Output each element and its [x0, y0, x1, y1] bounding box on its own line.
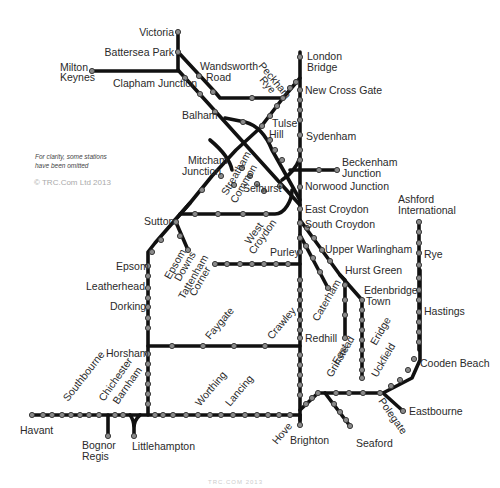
- label-new-cross-gate[interactable]: New Cross Gate: [305, 84, 382, 96]
- label-victoria[interactable]: Victoria: [139, 26, 174, 38]
- label-leatherhead[interactable]: Leatherhead: [86, 280, 145, 292]
- label-ashford-international-2[interactable]: International: [398, 204, 456, 216]
- rail-network-map: Victoria Battersea Park Milton Keynes Cl…: [0, 0, 500, 488]
- label-tulse-hill-2[interactable]: Hill: [269, 128, 284, 140]
- label-redhill[interactable]: Redhill: [305, 332, 337, 344]
- label-beckenham-junction-2[interactable]: Junction: [342, 167, 381, 179]
- label-littlehampton[interactable]: Littlehampton: [132, 440, 195, 452]
- label-uckfield[interactable]: Uckfield: [368, 341, 397, 379]
- line-sutton-horsham: [148, 203, 190, 415]
- label-balham[interactable]: Balham: [182, 109, 218, 121]
- label-edenbridge-town-2[interactable]: Town: [366, 295, 391, 307]
- label-dorking[interactable]: Dorking: [110, 300, 146, 312]
- label-upper-warlingham[interactable]: Upper Warlingham: [325, 243, 412, 255]
- copyright-text: © TRC.Com Ltd 2013: [34, 178, 111, 187]
- label-epsom[interactable]: Epsom: [116, 260, 149, 272]
- label-cooden-beach[interactable]: Cooden Beach: [420, 357, 490, 369]
- label-selhurst[interactable]: Selhurst: [243, 182, 282, 194]
- label-bognor-regis-2[interactable]: Regis: [82, 450, 109, 462]
- label-faygate[interactable]: Faygate: [202, 304, 236, 341]
- label-purley[interactable]: Purley: [270, 246, 301, 258]
- label-south-croydon[interactable]: South Croydon: [305, 218, 375, 230]
- label-mitcham-junction-2[interactable]: Junction: [182, 165, 221, 177]
- label-sydenham[interactable]: Sydenham: [306, 130, 356, 142]
- label-brighton[interactable]: Brighton: [290, 434, 329, 446]
- label-milton-keynes-2[interactable]: Keynes: [60, 71, 95, 83]
- label-clapham-junction[interactable]: Clapham Junction: [113, 77, 197, 89]
- label-eastbourne[interactable]: Eastbourne: [409, 405, 463, 417]
- label-rye[interactable]: Rye: [424, 248, 443, 260]
- label-east-croydon[interactable]: East Croydon: [305, 203, 369, 215]
- label-battersea-park[interactable]: Battersea Park: [105, 46, 175, 58]
- label-hastings[interactable]: Hastings: [424, 305, 465, 317]
- label-crawley[interactable]: Crawley: [264, 304, 298, 341]
- label-london-bridge-2[interactable]: Bridge: [307, 61, 338, 73]
- footer-watermark: TRC.COM 2013: [208, 479, 263, 485]
- label-norwood-junction[interactable]: Norwood Junction: [305, 180, 389, 192]
- map-note-line2: have been omitted: [35, 162, 89, 169]
- label-hurst-green[interactable]: Hurst Green: [345, 264, 402, 276]
- label-seaford[interactable]: Seaford: [356, 437, 393, 449]
- label-havant[interactable]: Havant: [20, 424, 53, 436]
- label-lancing[interactable]: Lancing: [222, 372, 255, 408]
- line-littlehampton: [130, 415, 140, 436]
- label-wandsworth-road-2[interactable]: Road: [206, 71, 231, 83]
- line-caterham: [300, 235, 328, 288]
- label-sutton[interactable]: Sutton: [144, 215, 175, 227]
- map-note-line1: For clarity, some stations: [35, 153, 108, 161]
